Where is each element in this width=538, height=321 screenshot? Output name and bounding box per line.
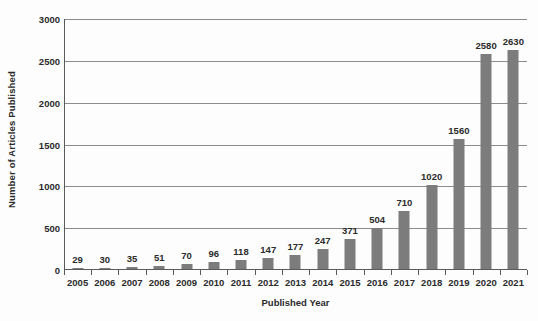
bar-value-label: 1560: [448, 125, 469, 136]
bar-value-label: 504: [369, 214, 385, 225]
y-tick-label: 1500: [22, 139, 60, 150]
x-tick: [200, 270, 201, 275]
x-tick: [336, 270, 337, 275]
bar-value-label: 147: [260, 244, 276, 255]
x-tick-label: 2015: [339, 277, 360, 288]
y-axis-title-label: Number of Articles Published: [6, 71, 17, 208]
bar-value-label: 1020: [421, 171, 442, 182]
bar-slot: 147: [255, 19, 282, 270]
bar-slot: 710: [391, 19, 418, 270]
x-tick-label: 2014: [312, 277, 333, 288]
bar: [508, 50, 519, 270]
bar: [426, 185, 437, 270]
x-tick-label: 2016: [367, 277, 388, 288]
x-tick: [445, 270, 446, 275]
x-tick-label: 2013: [285, 277, 306, 288]
x-tick: [309, 270, 310, 275]
bar: [344, 239, 355, 270]
x-tick: [227, 270, 228, 275]
bar-slot: 1020: [418, 19, 445, 270]
x-tick-label: 2009: [176, 277, 197, 288]
y-tick-label: 0: [22, 265, 60, 276]
x-tick-label: 2012: [258, 277, 279, 288]
x-tick: [364, 270, 365, 275]
bar: [399, 211, 410, 270]
x-tick-label: 2011: [231, 277, 252, 288]
y-tick-label: 3000: [22, 14, 60, 25]
bar-value-label: 51: [154, 252, 165, 263]
x-tick-label: 2007: [122, 277, 143, 288]
x-axis-tick-labels: 2005200620072008200920102011201220132014…: [64, 277, 527, 291]
bar-value-label: 710: [396, 197, 412, 208]
x-axis-title: Published Year: [64, 297, 527, 308]
bar-slot: 51: [146, 19, 173, 270]
bar-slot: 2580: [473, 19, 500, 270]
bar-value-label: 118: [233, 246, 248, 257]
bar-slot: 30: [91, 19, 118, 270]
bar: [453, 139, 464, 270]
y-axis-tick-labels: 050010001500200025003000: [18, 0, 60, 321]
y-axis-line: [64, 19, 65, 270]
x-tick: [500, 270, 501, 275]
bar-slot: 371: [336, 19, 363, 270]
bar-slot: 118: [227, 19, 254, 270]
bar-value-label: 177: [288, 241, 304, 252]
x-tick: [91, 270, 92, 275]
bar-value-label: 35: [127, 253, 138, 264]
x-tick: [527, 270, 528, 275]
x-tick: [173, 270, 174, 275]
bar: [372, 228, 383, 270]
bar-slot: 504: [364, 19, 391, 270]
bar-slot: 35: [118, 19, 145, 270]
x-tick: [282, 270, 283, 275]
x-tick: [146, 270, 147, 275]
x-tick-label: 2008: [149, 277, 170, 288]
bar-slot: 247: [309, 19, 336, 270]
bar-value-label: 371: [342, 225, 358, 236]
x-tick-label: 2018: [421, 277, 442, 288]
bar-chart-figure: Number of Articles Published 05001000150…: [0, 0, 538, 321]
plot-area: 2930355170961181471772473715047101020156…: [64, 19, 527, 270]
y-tick-label: 500: [22, 223, 60, 234]
bar-value-label: 96: [208, 248, 219, 259]
x-tick: [118, 270, 119, 275]
x-tick-label: 2005: [67, 277, 88, 288]
x-axis-ticks: [64, 270, 527, 276]
x-tick: [64, 270, 65, 275]
bar-slot: 2630: [500, 19, 527, 270]
x-tick-label: 2017: [394, 277, 415, 288]
bar-value-label: 29: [72, 254, 83, 265]
x-tick: [473, 270, 474, 275]
x-tick-label: 2019: [448, 277, 469, 288]
x-tick: [391, 270, 392, 275]
bar-value-label: 2630: [503, 36, 524, 47]
x-tick-label: 2020: [476, 277, 497, 288]
y-tick-label: 2000: [22, 97, 60, 108]
bar: [481, 54, 492, 270]
bar: [317, 249, 328, 270]
bar-slot: 1560: [445, 19, 472, 270]
x-tick-label: 2006: [94, 277, 115, 288]
x-tick: [255, 270, 256, 275]
y-tick-label: 1000: [22, 181, 60, 192]
y-tick-label: 2500: [22, 55, 60, 66]
bar-slot: 29: [64, 19, 91, 270]
bar-value-label: 30: [100, 254, 111, 265]
x-tick: [418, 270, 419, 275]
bar-slot: 70: [173, 19, 200, 270]
bar-value-label: 2580: [476, 40, 497, 51]
bar-value-label: 70: [181, 250, 192, 261]
bar-slot: 96: [200, 19, 227, 270]
x-tick-label: 2021: [503, 277, 524, 288]
x-tick-label: 2010: [203, 277, 224, 288]
bar-slot: 177: [282, 19, 309, 270]
bar-value-label: 247: [315, 235, 331, 246]
